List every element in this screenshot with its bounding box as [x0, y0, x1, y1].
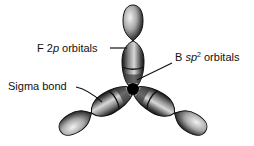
- label-b-sp2-orbitals: B sp2 orbitals: [175, 51, 239, 63]
- bf3-orbital-diagram: [0, 0, 254, 146]
- orbital-arm-lower-right: [131, 81, 211, 140]
- orbital-arm-top: [122, 5, 144, 85]
- label-sigma-bond: Sigma bond: [8, 80, 67, 92]
- label-f-2p-orbitals: F 2p orbitals: [37, 42, 98, 54]
- orbital-arm-lower-left: [55, 81, 135, 140]
- boron-center: [127, 83, 139, 95]
